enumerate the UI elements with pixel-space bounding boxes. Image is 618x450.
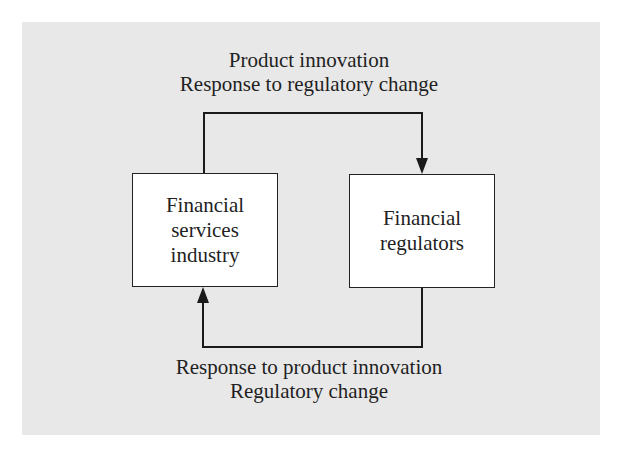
- node-label-line: industry: [166, 243, 244, 268]
- bottom-label-line-1: Response to product innovation: [176, 355, 443, 379]
- node-label-line: Financial: [166, 193, 244, 218]
- arrow-down-icon: [416, 158, 428, 174]
- bottom-label-line-2: Regulatory change: [230, 379, 388, 403]
- node-financial-services-industry: Financial services industry: [132, 173, 278, 287]
- node-label-line: services: [166, 218, 244, 243]
- top-label-line-1: Product innovation: [229, 48, 389, 72]
- top-connector: [204, 113, 422, 173]
- top-label-line-2: Response to regulatory change: [180, 72, 438, 96]
- arrow-up-icon: [197, 287, 209, 303]
- bottom-connector: [203, 287, 422, 347]
- top-edge-label: Product innovation Response to regulator…: [0, 48, 618, 96]
- node-financial-regulators: Financial regulators: [349, 174, 495, 288]
- node-label-line: regulators: [380, 231, 464, 256]
- bottom-edge-label: Response to product innovation Regulator…: [0, 355, 618, 403]
- node-label-line: Financial: [380, 206, 464, 231]
